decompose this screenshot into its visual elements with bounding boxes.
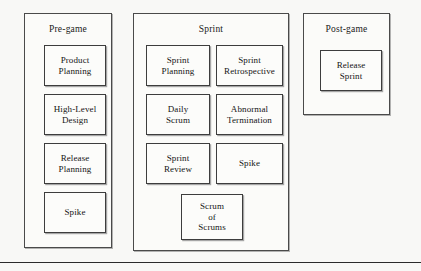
activity-label-spike-pre-game: Spike xyxy=(63,207,86,218)
activity-label-sprint-review: Sprint Review xyxy=(163,153,193,174)
activity-box-sprint-retrospective[interactable]: Sprint Retrospective xyxy=(216,45,283,86)
activity-box-spike-sprint[interactable]: Spike xyxy=(216,143,283,184)
activity-box-sprint-planning[interactable]: Sprint Planning xyxy=(146,45,210,86)
activity-label-spike-sprint: Spike xyxy=(238,158,261,169)
activity-label-product-planning: Product Planning xyxy=(58,55,93,76)
activity-box-release-sprint[interactable]: Release Sprint xyxy=(320,50,382,91)
activity-box-release-planning[interactable]: Release Planning xyxy=(44,143,106,184)
activity-box-daily-scrum[interactable]: Daily Scrum xyxy=(146,94,210,135)
phase-title-post-game: Post-game xyxy=(303,24,390,35)
activity-label-high-level-design: High-Level Design xyxy=(53,104,97,125)
scrum-process-diagram: Pre-gameProduct PlanningHigh-Level Desig… xyxy=(0,0,421,271)
phase-title-sprint: Sprint xyxy=(133,24,289,35)
phase-title-pre-game: Pre-game xyxy=(24,24,112,35)
activity-label-release-sprint: Release Sprint xyxy=(336,60,367,81)
activity-label-daily-scrum: Daily Scrum xyxy=(165,104,191,125)
activity-label-release-planning: Release Planning xyxy=(58,153,93,174)
activity-box-product-planning[interactable]: Product Planning xyxy=(44,45,106,86)
activity-box-sprint-review[interactable]: Sprint Review xyxy=(146,143,210,184)
activity-label-sprint-retrospective: Sprint Retrospective xyxy=(223,55,276,76)
activity-box-high-level-design[interactable]: High-Level Design xyxy=(44,94,106,135)
activity-label-abnormal-termination: Abnormal Termination xyxy=(226,104,273,125)
activity-box-spike-pre-game[interactable]: Spike xyxy=(44,192,106,233)
activity-label-sprint-planning: Sprint Planning xyxy=(161,55,196,76)
activity-label-scrum-of-scrums: Scrum of Scrums xyxy=(197,201,227,233)
bottom-divider-rule xyxy=(0,262,421,263)
activity-box-scrum-of-scrums[interactable]: Scrum of Scrums xyxy=(181,194,243,240)
activity-box-abnormal-termination[interactable]: Abnormal Termination xyxy=(216,94,283,135)
